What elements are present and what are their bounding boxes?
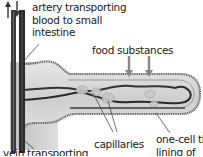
vein-label: vein transporting	[3, 147, 88, 156]
lining-label-line-2: lining of	[156, 146, 203, 157]
artery-up-arrow-icon	[5, 1, 11, 18]
artery-label: artery transporting blood to small intes…	[32, 1, 126, 39]
food-arrow-2-icon	[125, 56, 133, 77]
lining-label-line-1: one-cell th	[156, 133, 203, 146]
lining-leader-line	[156, 113, 170, 133]
artery-label-line-3: intestine	[32, 26, 126, 39]
food-substances-label: food substances	[92, 44, 173, 57]
artery-label-line-2: blood to small	[32, 14, 126, 27]
lining-label: one-cell th lining of	[156, 133, 203, 156]
artery-label-line-1: artery transporting	[32, 1, 126, 14]
capillaries-label: capillaries	[94, 138, 144, 151]
